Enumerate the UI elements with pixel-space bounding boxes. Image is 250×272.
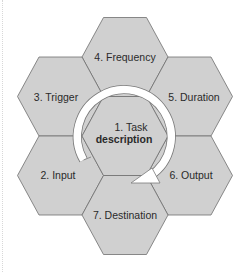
label-destination: 7. Destination [93, 209, 157, 221]
hexagon-diagram: 4. Frequency 3. Trigger 5. Duration 1. T… [0, 0, 250, 272]
label-frequency: 4. Frequency [94, 51, 156, 63]
label-duration: 5. Duration [168, 91, 220, 103]
diagram-frame: 4. Frequency 3. Trigger 5. Duration 1. T… [0, 0, 250, 272]
label-task-description: description [96, 133, 153, 145]
label-trigger: 3. Trigger [34, 91, 79, 103]
label-task-number: 1. Task [114, 121, 148, 133]
label-input: 2. Input [40, 169, 75, 181]
label-output: 6. Output [169, 169, 212, 181]
